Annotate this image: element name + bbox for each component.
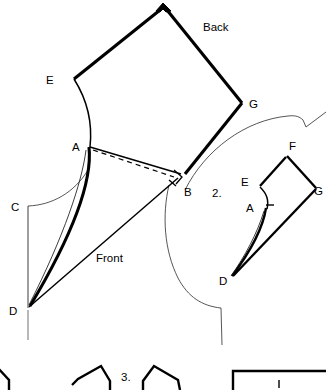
label-a-piece1: A xyxy=(72,141,80,153)
bottom-shape-mid-left xyxy=(72,366,110,390)
label-g-piece2: G xyxy=(314,185,323,197)
curve-a-to-d xyxy=(30,147,89,306)
label-d-piece2: D xyxy=(219,275,227,287)
label-step-2: 2. xyxy=(212,187,222,199)
guide-arc-lower xyxy=(165,185,221,308)
label-back: Back xyxy=(203,21,229,33)
label-e-piece2: E xyxy=(241,176,249,188)
label-e-piece1: E xyxy=(46,74,54,86)
label-a-piece2: A xyxy=(246,202,254,214)
edge-b-to-d xyxy=(29,178,178,307)
curve-a-to-d-inner-piece2 xyxy=(231,211,264,276)
apex-notch-icon xyxy=(156,3,171,12)
bottom-shape-left xyxy=(0,366,9,390)
piece-2-group: F G E A D 2. xyxy=(212,140,323,287)
label-f-piece2: F xyxy=(289,140,296,152)
edge-e-to-f-piece2 xyxy=(260,157,286,186)
edge-g-to-b xyxy=(185,103,242,174)
label-b-piece1: B xyxy=(184,186,192,198)
edge-f-to-g-piece2 xyxy=(287,156,316,188)
label-c-piece1: C xyxy=(11,201,19,213)
guide-arc-upper-notch xyxy=(303,112,326,127)
edge-apex-to-e xyxy=(74,10,160,79)
guide-arc-lower-corner xyxy=(221,308,222,345)
label-front: Front xyxy=(96,252,124,264)
label-step-3: 3. xyxy=(121,371,131,383)
piece-1-group: E G A B C D Back Front xyxy=(9,3,258,317)
pattern-diagram: E G A B C D Back Front xyxy=(0,0,326,390)
label-d-piece1: D xyxy=(9,305,17,317)
guide-arc-left xyxy=(28,170,88,206)
curve-a-to-d-piece2 xyxy=(232,208,266,276)
bottom-row-group: 3. xyxy=(0,366,326,390)
label-g-piece1: G xyxy=(249,98,258,110)
bottom-shape-mid-right xyxy=(143,366,180,390)
diagram-canvas: E G A B C D Back Front xyxy=(0,0,326,390)
curve-e-to-a xyxy=(74,79,91,147)
fold-line-a-to-b xyxy=(93,150,174,177)
edge-a-to-b xyxy=(90,147,181,174)
